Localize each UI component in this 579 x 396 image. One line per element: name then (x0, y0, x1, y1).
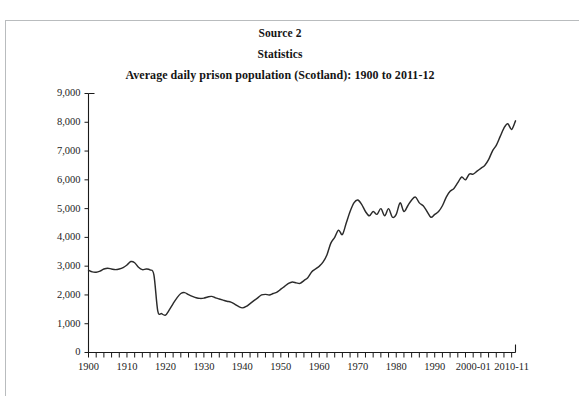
chart-figure: 01,0002,0003,0004,0005,0006,0007,0008,00… (0, 0, 579, 396)
y-axis-tick-label: 7,000 (57, 145, 81, 156)
y-axis-tick-label: 8,000 (57, 116, 81, 127)
y-axis-tick-label: 9,000 (57, 87, 81, 98)
x-axis-tick-label: 1960 (309, 361, 330, 372)
axis-lines (89, 94, 516, 353)
y-axis-tick-label: 2,000 (57, 289, 81, 300)
x-axis-tick-label: 1950 (270, 361, 291, 372)
series-line-prison-population (89, 121, 516, 315)
x-axis-tick-label: 1940 (232, 361, 253, 372)
y-axis-labels: 01,0002,0003,0004,0005,0006,0007,0008,00… (57, 87, 81, 357)
x-axis-tick-label: 2000-01 (456, 361, 491, 372)
y-axis-tick-label: 0 (75, 346, 80, 357)
y-axis-tick-label: 3,000 (57, 260, 81, 271)
line-chart-svg: 01,0002,0003,0004,0005,0006,0007,0008,00… (0, 0, 579, 396)
x-axis-tick-label: 1980 (386, 361, 407, 372)
x-axis-tick-label: 1900 (78, 361, 99, 372)
x-axis-tick-label: 2010-11 (494, 361, 529, 372)
y-axis-tick-label: 5,000 (57, 203, 81, 214)
x-axis-tick-label: 1910 (116, 361, 137, 372)
y-axis-ticks (85, 94, 89, 353)
x-axis-ticks (89, 353, 512, 358)
x-axis-tick-label: 1920 (155, 361, 176, 372)
y-axis-tick-label: 4,000 (57, 231, 81, 242)
x-axis-labels: 1900191019201930194019501960197019801990… (78, 361, 529, 372)
y-axis-tick-label: 1,000 (57, 318, 81, 329)
x-axis-tick-label: 1990 (424, 361, 445, 372)
x-axis-tick-label: 1970 (347, 361, 368, 372)
y-axis-tick-label: 6,000 (57, 174, 81, 185)
x-axis-tick-label: 1930 (193, 361, 214, 372)
